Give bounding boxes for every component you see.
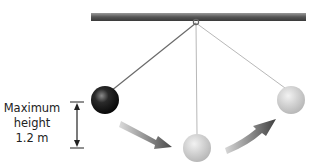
label-line-1: Maximum: [2, 101, 62, 116]
swing-up-arrow-icon: [225, 119, 276, 154]
left-bob-dark: [91, 86, 119, 114]
support-bar: [91, 13, 306, 21]
right-bob-light: [277, 86, 305, 114]
swing-down-arrow-icon: [119, 121, 172, 149]
height-measure-arrow-icon: [70, 102, 84, 148]
pendulum-strings: [111, 23, 285, 134]
label-line-2: height: [2, 116, 62, 131]
middle-bob-light: [183, 134, 211, 162]
label-line-3: 1.2 m: [2, 131, 62, 146]
pendulum-diagram: Maximum height 1.2 m: [0, 0, 319, 166]
maximum-height-label: Maximum height 1.2 m: [2, 101, 62, 146]
